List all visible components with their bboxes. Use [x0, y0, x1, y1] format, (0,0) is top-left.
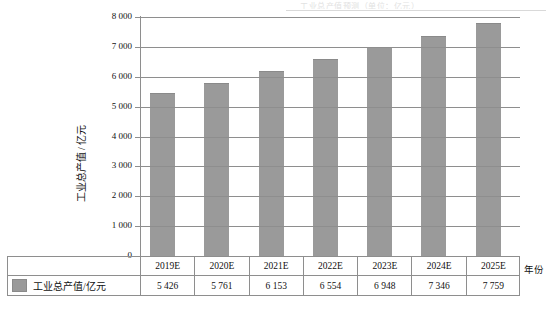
bar	[367, 47, 392, 256]
y-axis-tick	[135, 107, 140, 108]
legend-entry: 工业总产值/亿元	[8, 276, 140, 295]
bar	[204, 83, 229, 256]
table-header-cell: 2021E	[249, 257, 303, 275]
y-axis-tick-label: 2 000	[86, 191, 132, 200]
y-axis-tick	[135, 256, 140, 257]
chart-figure: 工业总产值预测（单位：亿元） 工业总产值 / 亿元 01 0002 0003 0…	[0, 0, 556, 309]
bar	[150, 93, 175, 256]
gridline	[140, 226, 520, 227]
table-value-cell: 7 759	[466, 276, 520, 295]
gridline	[140, 77, 520, 78]
table-value-cell: 6 948	[357, 276, 411, 295]
gridline	[140, 166, 520, 167]
table-header-cell: 2020E	[194, 257, 248, 275]
legend-swatch-icon	[12, 279, 27, 292]
y-axis-tick	[135, 196, 140, 197]
legend-label: 工业总产值/亿元	[33, 278, 106, 293]
table-header-cell: 2022E	[303, 257, 357, 275]
y-axis-tick-label: 6 000	[86, 72, 132, 81]
table-value-cell: 5 426	[140, 276, 194, 295]
table-corner-blank	[8, 257, 140, 276]
y-axis-tick-label: 4 000	[86, 132, 132, 141]
y-axis-tick	[135, 226, 140, 227]
table-value-cell: 6 554	[303, 276, 357, 295]
top-caption-faint: 工业总产值预测（单位：亿元）	[300, 0, 540, 9]
bar	[476, 23, 501, 256]
y-axis-tick	[135, 77, 140, 78]
table-value-cell: 6 153	[249, 276, 303, 295]
y-axis-tick	[135, 166, 140, 167]
table-value-cell: 5 761	[194, 276, 248, 295]
gridline	[140, 107, 520, 108]
x-axis-title: 年份	[524, 262, 544, 276]
gridline	[140, 17, 520, 18]
y-axis-tick	[135, 137, 140, 138]
y-axis-tick-label: 8 000	[86, 12, 132, 21]
y-axis-tick-label: 7 000	[86, 42, 132, 51]
bar	[421, 36, 446, 256]
gridline	[140, 47, 520, 48]
y-axis-title-wrapper: 工业总产值 / 亿元	[56, 60, 80, 200]
y-axis-tick-label: 3 000	[86, 161, 132, 170]
y-axis-tick	[135, 17, 140, 18]
table-header-cell: 2019E	[140, 257, 194, 275]
table-value-cell: 7 346	[411, 276, 465, 295]
bar	[259, 71, 284, 256]
gridline	[140, 137, 520, 138]
gridline	[140, 196, 520, 197]
y-axis-tick	[135, 47, 140, 48]
table-header-cell: 2025E	[466, 257, 520, 275]
y-axis-tick-label: 5 000	[86, 102, 132, 111]
y-axis-tick-labels: 01 0002 0003 0004 0005 0006 0007 0008 00…	[82, 0, 132, 280]
top-divider-rule	[286, 10, 546, 11]
table-header-cell: 2023E	[357, 257, 411, 275]
y-axis-tick-label: 1 000	[86, 221, 132, 230]
plot-area	[140, 17, 520, 256]
table-header-cell: 2024E	[411, 257, 465, 275]
